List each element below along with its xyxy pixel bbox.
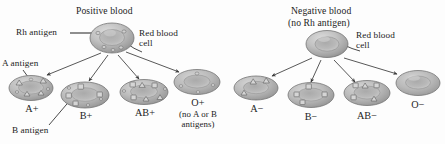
left-rbc-line2: cell: [139, 38, 153, 48]
right-red-blood-cell-callout: Red blood cell: [356, 30, 395, 51]
cell-o-pos: [174, 70, 220, 95]
cell-a-neg: [234, 76, 278, 100]
right-branch-arrows: [272, 58, 397, 82]
left-branch-arrows: [47, 52, 179, 81]
arrow-to-ab-pos: [118, 55, 139, 79]
label-a-neg: A−: [239, 103, 275, 114]
label-o-pos-sublabel: (no A or B antigens): [166, 110, 230, 130]
arrow-to-o-neg: [344, 58, 397, 74]
label-o-neg: O−: [400, 99, 436, 110]
cell-ab-neg: [344, 81, 390, 106]
label-ab-neg: AB−: [348, 110, 386, 121]
cell-b-neg: [288, 83, 334, 108]
label-b-neg: B−: [293, 111, 329, 122]
b-antigen-callout: B antigen: [12, 125, 48, 135]
a-antigen-callout: A antigen: [2, 58, 38, 68]
right-rbc-line1: Red blood: [356, 30, 395, 40]
right-rbc-line2: cell: [356, 40, 370, 50]
cell-o-neg: [396, 71, 440, 96]
arrow-to-ab-neg: [334, 60, 355, 82]
left-red-blood-cell-callout: Red blood cell: [139, 28, 178, 49]
label-ab-pos: AB+: [126, 107, 164, 118]
rh-antigen-callout: Rh antigen: [16, 27, 57, 37]
negative-blood-title-sub: (no Rh antigen): [288, 18, 350, 29]
arrow-to-o-pos: [126, 52, 179, 72]
positive-blood-title: Positive blood: [76, 6, 133, 17]
label-a-pos: A+: [14, 103, 50, 114]
arrow-to-a-pos: [47, 53, 101, 75]
arrow-to-b-pos: [89, 55, 108, 81]
cell-a-pos: [9, 76, 53, 101]
left-rbc-line1: Red blood: [139, 28, 178, 38]
cell-ab-pos: [120, 80, 168, 105]
negative-blood-title: Negative blood: [291, 6, 351, 17]
positive-parent-cell: [90, 23, 134, 53]
label-b-pos: B+: [68, 110, 104, 121]
label-o-pos: O+: [179, 97, 217, 108]
arrow-to-a-neg: [272, 58, 312, 76]
blood-type-diagram: Positive blood Rh antigen Red blood cell…: [0, 0, 445, 144]
cell-b-pos: [61, 82, 109, 108]
arrow-to-b-neg: [311, 60, 321, 82]
negative-parent-cell: [306, 31, 348, 58]
